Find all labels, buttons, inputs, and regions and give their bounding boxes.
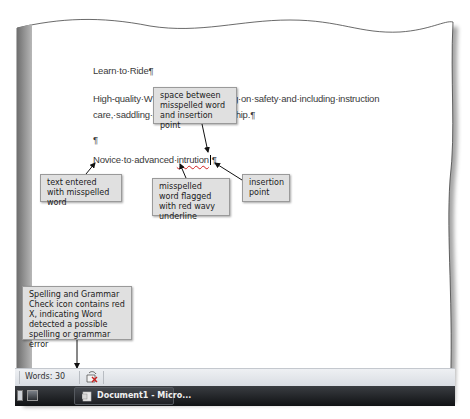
spelling-grammar-check-icon[interactable] [85, 371, 99, 384]
doc-heading-line[interactable]: Learn·to·Ride¶ [93, 65, 153, 76]
taskbar-button-document1[interactable]: Document1 - Micro... [74, 387, 174, 405]
callout-spelling-icon: Spelling and Grammar Check icon contains… [22, 286, 132, 340]
taskbar: Document1 - Micro... [15, 386, 455, 406]
callout-text-entered: text entered with misspelled word [40, 174, 122, 202]
insertion-point [210, 155, 211, 165]
status-separator [19, 371, 20, 384]
novice-prefix: Novice·to·advanced· [93, 154, 177, 165]
torn-window-frame [0, 0, 470, 419]
quick-launch-icon[interactable] [17, 390, 23, 401]
doc-novice-line[interactable]: Novice·to·advanced·intrution¶ [93, 154, 217, 165]
misspelled-word[interactable]: intrution [177, 154, 209, 165]
callout-insertion-point: insertion point [242, 174, 290, 202]
status-separator [103, 371, 104, 384]
status-separator [79, 371, 80, 384]
taskbar-button-label: Document1 - Micro... [97, 391, 191, 400]
doc-empty-paragraph[interactable]: ¶ [93, 134, 98, 145]
callout-misspelled-flagged: misspelled word flagged with red wavy un… [152, 178, 230, 216]
word-count[interactable]: Words: 30 [25, 372, 65, 381]
word-window-excerpt: Learn·to·Ride¶ High-quality·W ng·lessons… [0, 0, 470, 419]
show-desktop-icon[interactable] [27, 390, 38, 401]
status-bar: Words: 30 [15, 368, 455, 386]
word-document-icon [82, 391, 93, 402]
paragraph-mark: ¶ [212, 154, 217, 165]
callout-space-between: space between misspelled word and insert… [153, 87, 237, 124]
